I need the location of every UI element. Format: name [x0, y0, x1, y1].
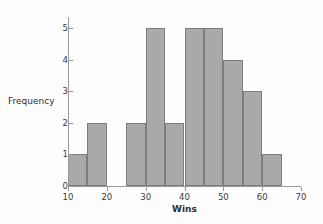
x-axis-tick-label: 20 — [94, 193, 120, 202]
x-axis-tick — [301, 187, 302, 191]
y-axis-tick — [69, 60, 73, 61]
y-axis-line — [68, 17, 69, 187]
x-axis-tick-label: 40 — [172, 193, 198, 202]
x-axis-tick — [185, 187, 186, 191]
histogram-figure: 01234510203040506070 Frequency Wins — [0, 0, 323, 224]
y-axis-tick-label: 2 — [50, 119, 68, 128]
y-axis-tick — [69, 28, 73, 29]
histogram-bar — [68, 154, 87, 186]
y-axis-tick-label: 5 — [50, 24, 68, 33]
histogram-bar — [185, 28, 204, 186]
histogram-bar — [146, 28, 165, 186]
y-axis-tick-label: 1 — [50, 150, 68, 159]
x-axis-tick-label: 60 — [249, 193, 275, 202]
x-axis-tick-label: 30 — [133, 193, 159, 202]
histogram-bar — [126, 123, 145, 186]
histogram-bar — [243, 91, 262, 186]
x-axis-tick — [146, 187, 147, 191]
y-axis-tick-label: 0 — [50, 182, 68, 191]
histogram-bar — [204, 28, 223, 186]
x-axis-tick-label: 50 — [210, 193, 236, 202]
x-axis-tick — [262, 187, 263, 191]
y-axis-tick — [69, 154, 73, 155]
y-axis-tick-label: 3 — [50, 87, 68, 96]
x-axis-tick-label: 10 — [55, 193, 81, 202]
histogram-bar — [262, 154, 281, 186]
x-axis-tick — [223, 187, 224, 191]
histogram-bar — [87, 123, 106, 186]
y-axis-tick-label: 4 — [50, 56, 68, 65]
x-axis-tick-label: 70 — [288, 193, 314, 202]
bars-layer — [0, 0, 323, 224]
y-axis-tick — [69, 91, 73, 92]
y-axis-tick — [69, 123, 73, 124]
x-axis-tick — [107, 187, 108, 191]
x-axis-tick — [68, 187, 69, 191]
x-axis-title: Wins — [68, 205, 301, 214]
y-axis-title: Frequency — [8, 97, 62, 106]
histogram-bar — [223, 60, 242, 186]
histogram-bar — [165, 123, 184, 186]
y-axis-tick — [69, 186, 73, 187]
